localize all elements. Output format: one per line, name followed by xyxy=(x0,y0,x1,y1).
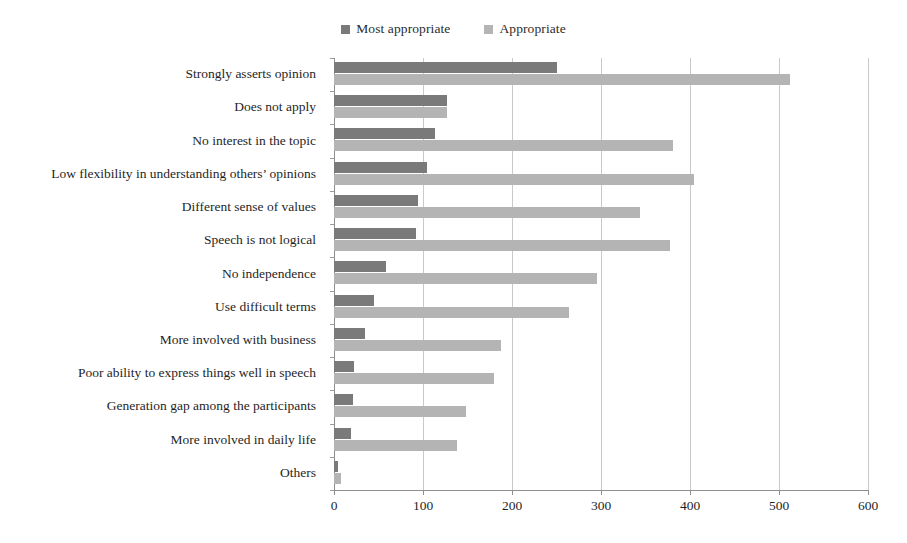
legend-swatch-icon xyxy=(484,25,493,34)
bar-appropriate[interactable] xyxy=(334,174,694,185)
x-axis: 0100200300400500600 xyxy=(334,490,868,530)
bar-most-appropriate[interactable] xyxy=(334,328,365,339)
x-axis-tick-label: 300 xyxy=(591,498,611,514)
bar-appropriate[interactable] xyxy=(334,140,673,151)
gridline xyxy=(868,58,869,490)
bar-appropriate[interactable] xyxy=(334,240,670,251)
bar-row xyxy=(334,390,868,423)
bar-appropriate[interactable] xyxy=(334,406,466,417)
legend-swatch-icon xyxy=(341,25,350,34)
bar-appropriate[interactable] xyxy=(334,373,494,384)
bar-appropriate[interactable] xyxy=(334,440,457,451)
bar-chart: Most appropriateAppropriate Strongly ass… xyxy=(0,0,907,543)
bar-most-appropriate[interactable] xyxy=(334,162,427,173)
bar-most-appropriate[interactable] xyxy=(334,361,354,372)
x-axis-tick xyxy=(779,490,780,495)
category-label: Different sense of values xyxy=(182,191,316,224)
category-label: Poor ability to express things well in s… xyxy=(78,357,316,390)
bar-most-appropriate[interactable] xyxy=(334,128,435,139)
bar-row xyxy=(334,324,868,357)
bar-most-appropriate[interactable] xyxy=(334,195,418,206)
plot-area xyxy=(334,58,868,490)
bar-appropriate[interactable] xyxy=(334,307,569,318)
bar-row xyxy=(334,58,868,91)
category-label: Others xyxy=(280,457,316,490)
bar-most-appropriate[interactable] xyxy=(334,428,351,439)
category-label: No independence xyxy=(222,257,316,290)
x-axis-tick-label: 100 xyxy=(413,498,433,514)
category-label: Use difficult terms xyxy=(215,291,316,324)
bar-appropriate[interactable] xyxy=(334,207,640,218)
category-label: Speech is not logical xyxy=(204,224,316,257)
x-axis-tick xyxy=(868,490,869,495)
category-label: More involved in daily life xyxy=(171,424,316,457)
category-label: Low flexibility in understanding others’… xyxy=(51,158,316,191)
x-axis-tick xyxy=(423,490,424,495)
bar-row xyxy=(334,257,868,290)
category-label: Strongly asserts opinion xyxy=(186,58,317,91)
bar-row xyxy=(334,91,868,124)
category-label: Generation gap among the participants xyxy=(107,390,316,423)
bar-appropriate[interactable] xyxy=(334,473,341,484)
legend-entry[interactable]: Appropriate xyxy=(484,22,565,36)
category-axis-labels: Strongly asserts opinionDoes not applyNo… xyxy=(0,58,326,490)
bar-most-appropriate[interactable] xyxy=(334,461,338,472)
legend-entry[interactable]: Most appropriate xyxy=(341,22,450,36)
bar-most-appropriate[interactable] xyxy=(334,95,447,106)
y-axis-tick xyxy=(330,58,334,59)
bar-rows xyxy=(334,58,868,490)
bar-most-appropriate[interactable] xyxy=(334,295,374,306)
bar-row xyxy=(334,424,868,457)
bar-row xyxy=(334,357,868,390)
bar-most-appropriate[interactable] xyxy=(334,62,557,73)
x-axis-tick xyxy=(334,490,335,495)
bar-row xyxy=(334,158,868,191)
bar-most-appropriate[interactable] xyxy=(334,228,416,239)
bar-appropriate[interactable] xyxy=(334,74,790,85)
x-axis-tick xyxy=(690,490,691,495)
bar-appropriate[interactable] xyxy=(334,107,447,118)
x-axis-tick-label: 600 xyxy=(858,498,878,514)
category-label: Does not apply xyxy=(234,91,316,124)
x-axis-tick-label: 500 xyxy=(769,498,789,514)
bar-row xyxy=(334,124,868,157)
bar-most-appropriate[interactable] xyxy=(334,394,353,405)
bar-most-appropriate[interactable] xyxy=(334,261,386,272)
bar-row xyxy=(334,457,868,490)
x-axis-tick-label: 200 xyxy=(502,498,522,514)
x-axis-tick-label: 400 xyxy=(680,498,700,514)
bar-row xyxy=(334,224,868,257)
x-axis-tick xyxy=(512,490,513,495)
chart-legend: Most appropriateAppropriate xyxy=(0,18,907,40)
legend-label: Most appropriate xyxy=(356,22,450,36)
bar-appropriate[interactable] xyxy=(334,340,501,351)
legend-label: Appropriate xyxy=(499,22,565,36)
bar-row xyxy=(334,291,868,324)
x-axis-tick-label: 0 xyxy=(331,498,338,514)
x-axis-tick xyxy=(601,490,602,495)
category-label: More involved with business xyxy=(160,324,316,357)
category-label: No interest in the topic xyxy=(192,124,316,157)
bar-appropriate[interactable] xyxy=(334,273,597,284)
bar-row xyxy=(334,191,868,224)
